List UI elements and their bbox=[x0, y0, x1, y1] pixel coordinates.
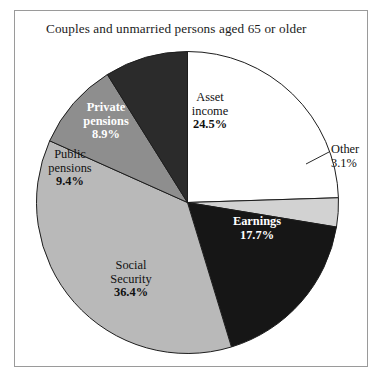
slice-label-line1: Earnings bbox=[209, 215, 305, 229]
slice-label-line1: Public bbox=[22, 148, 118, 162]
pie-graphic bbox=[0, 0, 384, 379]
slice-value: 9.4% bbox=[22, 175, 118, 189]
slice-value: 36.4% bbox=[79, 286, 183, 300]
slice-value: 24.5% bbox=[158, 118, 262, 132]
slice-label-public-pensions: Public pensions 9.4% bbox=[22, 148, 118, 189]
slice-label-line2: Security bbox=[79, 273, 183, 287]
slice-label-earnings: Earnings 17.7% bbox=[209, 215, 305, 242]
slice-label-line2: pensions bbox=[22, 162, 118, 176]
pie-chart-figure: Couples and unmarried persons aged 65 or… bbox=[0, 0, 384, 379]
slice-value: 17.7% bbox=[209, 229, 305, 243]
slice-label-line1: Private bbox=[58, 101, 154, 115]
slice-value: 3.1% bbox=[331, 157, 383, 171]
slice-value: 8.9% bbox=[58, 128, 154, 142]
slice-label-line1: Other bbox=[331, 143, 383, 157]
slice-label-line2: income bbox=[158, 105, 262, 119]
slice-label-line2: pensions bbox=[58, 115, 154, 129]
slice-label-private-pensions: Private pensions 8.9% bbox=[58, 101, 154, 142]
slice-label-social-security: Social Security 36.4% bbox=[79, 259, 183, 300]
slice-label-line1: Social bbox=[79, 259, 183, 273]
slice-label-line1: Asset bbox=[158, 91, 262, 105]
slice-label-other: Other 3.1% bbox=[331, 143, 383, 170]
slice-label-asset-income: Asset income 24.5% bbox=[158, 91, 262, 132]
